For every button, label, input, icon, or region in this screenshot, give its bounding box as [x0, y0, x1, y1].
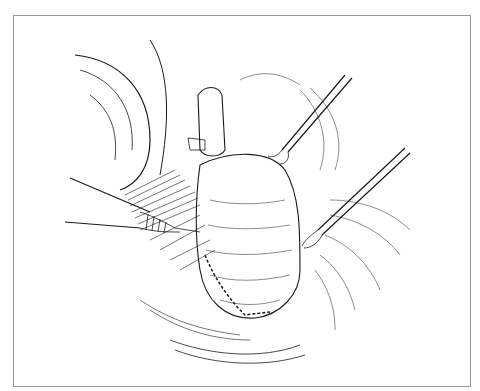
forceps-lower[interactable]: [302, 148, 410, 248]
retractor-blade: [75, 40, 167, 190]
surgical-illustration: [0, 0, 480, 391]
mesentery-tissue: [170, 74, 410, 364]
tubular-structure: [188, 88, 225, 157]
forceps-upper[interactable]: [268, 75, 352, 164]
suction-probe: [65, 178, 200, 233]
central-organ: [196, 154, 300, 318]
